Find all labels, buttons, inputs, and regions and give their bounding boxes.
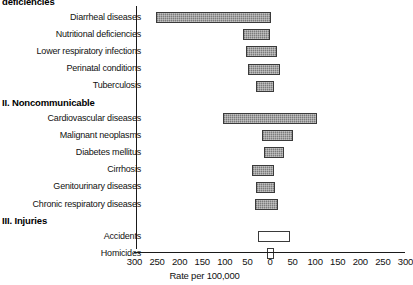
category-label: Cardiovascular diseases [48, 113, 141, 123]
x-axis-line [134, 252, 405, 253]
category-label: Malignant neoplasms [60, 130, 141, 140]
bar [252, 165, 274, 176]
x-tick-150-left: 150 [195, 256, 210, 267]
x-axis-title: Rate per 100,000 [0, 270, 409, 281]
category-label: Genitourinary diseases [53, 181, 141, 191]
category-label: Accidents [104, 231, 141, 241]
x-tick-200-right: 200 [353, 256, 368, 267]
category-label: Diabetes mellitus [76, 147, 141, 157]
group-heading-3: III. Injuries [2, 215, 47, 226]
bar [258, 231, 290, 242]
group-heading-2: II. Noncommunicable [2, 97, 95, 108]
x-tick-0-zero: 0 [267, 256, 272, 267]
x-tick-300-right: 300 [398, 256, 413, 267]
category-label: Nutritional deficiencies [56, 29, 141, 39]
x-tick-100-left: 100 [217, 256, 232, 267]
plot-area [134, 0, 405, 249]
x-tick-100-right: 100 [308, 256, 323, 267]
x-tick-50-right: 50 [287, 256, 297, 267]
bar [243, 29, 271, 40]
x-tick-150-right: 150 [330, 256, 345, 267]
bar [156, 12, 271, 23]
x-tick-300-left: 300 [127, 256, 142, 267]
bar [256, 182, 275, 193]
bar [264, 147, 283, 158]
group-heading-1: deficiencies [2, 0, 55, 7]
category-label: Cirrhosis [107, 164, 141, 174]
category-label: Chronic respiratory diseases [33, 199, 141, 209]
bar [246, 46, 277, 57]
bar [223, 113, 316, 124]
category-label: Diarrheal diseases [70, 12, 141, 22]
x-tick-50-left: 50 [242, 256, 252, 267]
x-tick-200-left: 200 [172, 256, 187, 267]
x-tick-250-right: 250 [375, 256, 390, 267]
bar [255, 199, 278, 210]
bar [262, 130, 293, 141]
category-label: Perinatal conditions [66, 63, 141, 73]
category-label: Lower respiratory infections [37, 46, 141, 56]
bar [256, 81, 274, 92]
bar [248, 64, 280, 75]
category-label: Tuberculosis [93, 80, 141, 90]
x-tick-250-left: 250 [149, 256, 164, 267]
